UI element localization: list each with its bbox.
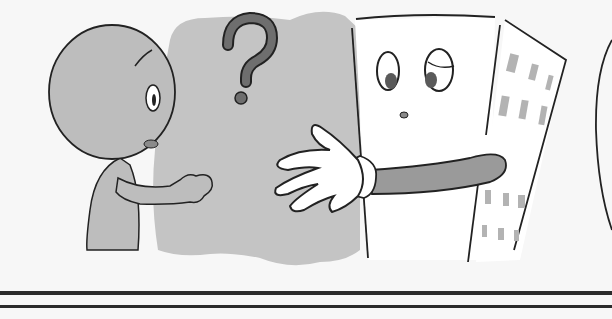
partial-circle xyxy=(596,40,612,230)
divider-line-bottom xyxy=(0,305,612,308)
illustration: ? xyxy=(0,0,612,319)
cartoon-scene xyxy=(0,0,612,319)
divider-line-top xyxy=(0,291,612,295)
